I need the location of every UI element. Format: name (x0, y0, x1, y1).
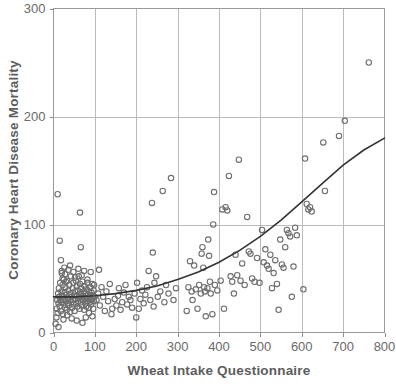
y-tick-label: 0 (38, 325, 45, 340)
x-tick-label: 700 (332, 339, 354, 354)
x-tick-label: 100 (84, 339, 106, 354)
x-tick-label: 200 (125, 339, 147, 354)
y-tick-label: 200 (24, 109, 46, 124)
x-tick-label: 500 (250, 339, 272, 354)
x-tick-labels: 0100200300400500600700800 (50, 339, 395, 354)
x-tick-label: 0 (50, 339, 57, 354)
chart-figure: 0100200300400500600700800 0100200300 Whe… (0, 0, 396, 388)
y-axis-title: Coronary Heart Disease Mortality (6, 60, 21, 280)
x-tick-label: 400 (208, 339, 230, 354)
y-tick-label: 100 (24, 217, 46, 232)
scatter-plot: 0100200300400500600700800 0100200300 Whe… (0, 0, 396, 388)
y-tick-label: 300 (24, 1, 46, 16)
x-tick-label: 600 (291, 339, 313, 354)
x-tick-label: 300 (167, 339, 189, 354)
x-tick-label: 800 (374, 339, 396, 354)
x-axis-title: Wheat Intake Questionnaire (128, 363, 311, 378)
